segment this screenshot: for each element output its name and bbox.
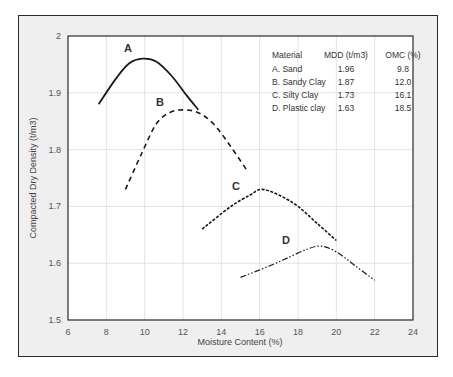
table-cell: 12.0 [395, 77, 412, 87]
y-axis-ticks: 1.51.61.71.81.92 [48, 31, 61, 325]
x-tick-label: 12 [178, 327, 188, 337]
table-cell: 1.96 [338, 64, 355, 74]
x-tick-label: 16 [255, 327, 265, 337]
data-table: MaterialMDD (t/m3)OMC (%)A. Sand1.969.8B… [272, 50, 421, 113]
x-tick-label: 22 [370, 327, 380, 337]
table-header: Material [272, 50, 302, 60]
table-cell: D. Plastic clay [272, 103, 326, 113]
curve-label-d: D [282, 234, 290, 246]
table-header: MDD (t/m3) [324, 50, 368, 60]
x-tick-label: 8 [104, 327, 109, 337]
x-tick-label: 20 [331, 327, 341, 337]
y-tick-label: 1.7 [48, 201, 61, 211]
table-cell: 1.73 [338, 90, 355, 100]
x-tick-label: 14 [216, 327, 226, 337]
y-tick-label: 1.9 [48, 88, 61, 98]
x-axis-ticks: 681012141618202224 [65, 327, 418, 337]
x-tick-label: 6 [65, 327, 70, 337]
x-tick-label: 10 [140, 327, 150, 337]
curve-label-b: B [156, 96, 164, 108]
y-axis-label: Compacted Dry Density (t/m3) [28, 117, 38, 238]
table-cell: C. Silty Clay [272, 90, 319, 100]
table-cell: 16.1 [395, 90, 412, 100]
table-header: OMC (%) [385, 50, 421, 60]
x-tick-label: 24 [408, 327, 418, 337]
y-tick-label: 1.6 [48, 258, 61, 268]
table-cell: B. Sandy Clay [272, 77, 327, 87]
y-tick-label: 2 [56, 31, 61, 41]
table-cell: 1.87 [338, 77, 355, 87]
x-tick-label: 18 [293, 327, 303, 337]
table-cell: 18.5 [395, 103, 412, 113]
x-axis-label: Moisture Content (%) [197, 337, 282, 347]
chart: 1.51.61.71.81.92 681012141618202224 Mois… [0, 0, 453, 377]
table-cell: 1.63 [338, 103, 355, 113]
table-cell: A. Sand [272, 64, 303, 74]
curve-label-c: C [232, 180, 240, 192]
y-tick-label: 1.5 [48, 315, 61, 325]
curve-label-a: A [124, 42, 132, 54]
table-cell: 9.8 [397, 64, 409, 74]
y-tick-label: 1.8 [48, 145, 61, 155]
